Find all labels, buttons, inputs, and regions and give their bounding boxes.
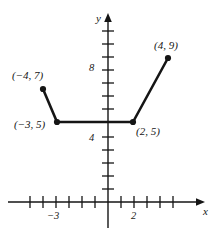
point-label-neg3-5: (−3, 5)	[14, 119, 45, 130]
point-label-4-9: (4, 9)	[154, 40, 178, 51]
point-label-2-5: (2, 5)	[136, 126, 160, 137]
x-tick-label-2: 2	[131, 211, 136, 222]
y-axis-arrowhead	[104, 13, 112, 22]
data-point-neg3-5	[54, 119, 60, 125]
data-point-neg4-7	[40, 86, 46, 92]
y-tick-label-8: 8	[89, 63, 94, 74]
point-label-neg4-7: (−4, 7)	[12, 70, 43, 81]
y-axis-label: y	[96, 13, 101, 24]
y-tick-label-4: 4	[89, 133, 94, 144]
coordinate-plane-figure: (−4, 7) (−3, 5) (2, 5) (4, 9) −3 2 4 8 y…	[0, 0, 217, 241]
data-point-4-9	[165, 55, 171, 61]
x-tick-label-neg3: −3	[47, 211, 59, 222]
piecewise-line-path	[43, 58, 168, 122]
x-axis-label: x	[203, 206, 208, 217]
